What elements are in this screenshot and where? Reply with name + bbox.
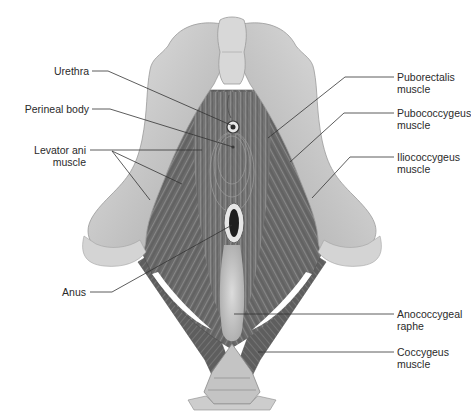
label-anus-text: Anus	[62, 286, 86, 298]
label-anococcygeal-raphe-line1: Anococcygeal	[397, 308, 462, 320]
anococcygeal-raphe	[220, 245, 244, 341]
label-coccygeus: Coccygeus muscle	[397, 346, 449, 370]
label-urethra-text: Urethra	[54, 65, 89, 77]
label-anus: Anus	[62, 286, 86, 298]
label-iliococcygeus-line2: muscle	[397, 163, 460, 175]
label-perineal-body-text: Perineal body	[25, 103, 89, 115]
label-pubococcygeus-line1: Pubococcygeus	[397, 107, 471, 119]
pubic-symphysis	[218, 17, 247, 84]
label-perineal-body: Perineal body	[25, 103, 89, 115]
label-pubococcygeus: Pubococcygeus muscle	[397, 107, 471, 131]
label-pubococcygeus-line2: muscle	[397, 119, 471, 131]
label-anococcygeal-raphe: Anococcygeal raphe	[397, 308, 462, 332]
label-levator-ani-line2: muscle	[34, 156, 86, 168]
anus	[224, 203, 244, 243]
label-coccygeus-line2: muscle	[397, 358, 449, 370]
label-levator-ani: Levator ani muscle	[34, 144, 86, 168]
label-coccygeus-line1: Coccygeus	[397, 346, 449, 358]
label-iliococcygeus-line1: Iliococcygeus	[397, 151, 460, 163]
label-puborectalis: Puborectalis muscle	[397, 71, 455, 95]
label-levator-ani-line1: Levator ani	[34, 144, 86, 156]
label-iliococcygeus: Iliococcygeus muscle	[397, 151, 460, 175]
label-urethra: Urethra	[54, 65, 89, 77]
label-anococcygeal-raphe-line2: raphe	[397, 320, 462, 332]
label-puborectalis-line2: muscle	[397, 83, 455, 95]
label-puborectalis-line1: Puborectalis	[397, 71, 455, 83]
